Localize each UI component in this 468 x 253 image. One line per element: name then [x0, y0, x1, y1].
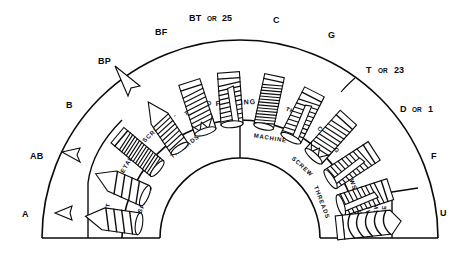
label-bp-text: BP [98, 56, 111, 66]
label-bf: BF [155, 27, 168, 37]
label-d-alt: 1 [428, 104, 433, 114]
label-bt: BT OR 25 [189, 13, 232, 23]
label-f: F [431, 151, 437, 161]
screw-illustration-group [84, 72, 402, 240]
screw-illustration-a [84, 205, 144, 235]
label-c-text: C [273, 15, 280, 25]
label-b-text: B [66, 100, 73, 110]
label-a: A [22, 209, 29, 219]
label-c: C [273, 15, 280, 25]
label-g-text: G [328, 30, 335, 40]
label-t-text: T [366, 65, 372, 75]
label-u: U [440, 208, 447, 218]
label-bp: BP [98, 56, 111, 66]
label-f-text: F [431, 151, 437, 161]
screw-illustration-bf [179, 79, 217, 138]
label-d-or: OR [412, 106, 422, 113]
label-bt-text: BT [189, 13, 202, 23]
leader-arrow-ab [62, 148, 80, 162]
label-ab-text: AB [30, 151, 44, 161]
label-bf-text: BF [155, 27, 168, 37]
screw-illustration-c [253, 74, 284, 132]
label-t-alt: 23 [394, 65, 404, 75]
label-u-text: U [440, 208, 447, 218]
label-bt-or: OR [207, 15, 217, 22]
label-t-or: OR [378, 67, 388, 74]
label-d: D OR 1 [400, 104, 433, 114]
band-label-dash: - [172, 112, 178, 119]
label-b: B [66, 100, 73, 110]
label-d-text: D [400, 104, 407, 114]
leader-arrow-a [55, 206, 72, 220]
label-t: T OR 23 [366, 65, 404, 75]
label-g: G [328, 30, 335, 40]
band-label-threads-right: THREADS [313, 185, 331, 219]
label-bt-alt: 25 [222, 13, 232, 23]
band-inner-arc [160, 158, 320, 238]
leader-arrow-t [341, 78, 355, 92]
screw-illustration-bt [217, 72, 243, 129]
label-ab: AB [30, 151, 44, 161]
label-a-text: A [22, 209, 29, 219]
screw-thread-fan-diagram: SHEET METAL SCREWS - THREAD FORMING & TH… [0, 0, 468, 253]
